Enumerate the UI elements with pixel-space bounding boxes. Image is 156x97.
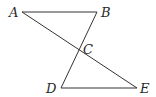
label-e: E [139,81,150,96]
label-d: D [45,81,57,96]
label-a: A [8,5,18,20]
geometry-diagram: A B C D E [0,0,156,97]
label-b: B [100,5,111,20]
label-c: C [83,42,93,57]
